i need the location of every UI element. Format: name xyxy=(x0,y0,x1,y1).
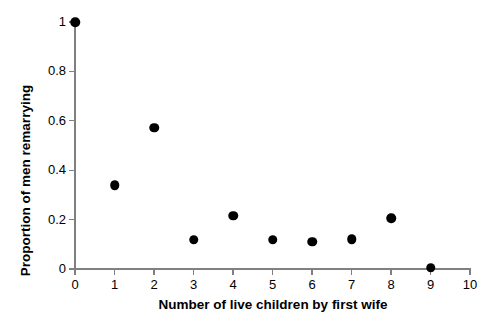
x-axis-tick-label: 3 xyxy=(174,277,214,292)
y-axis-tick-label: 0 xyxy=(8,262,66,276)
data-point xyxy=(386,213,396,223)
y-axis-tick-label: 0.8 xyxy=(8,64,66,78)
y-axis-tick xyxy=(69,120,74,121)
y-axis-tick xyxy=(69,71,74,72)
x-axis-tick xyxy=(351,270,352,275)
y-axis-tick-label-text: 1 xyxy=(12,15,66,28)
y-axis-line xyxy=(74,21,76,270)
y-axis-tick-label: 0.4 xyxy=(8,163,66,177)
data-point xyxy=(347,235,357,245)
x-axis-tick xyxy=(74,270,75,275)
x-axis-tick xyxy=(272,270,273,275)
scatter-chart-figure: Proportion of men remarrying 00.20.40.60… xyxy=(0,0,492,329)
x-axis-tick xyxy=(153,270,154,275)
x-axis-tick-label: 4 xyxy=(213,277,253,292)
x-axis-tick-label: 9 xyxy=(411,277,451,292)
y-axis-tick xyxy=(69,170,74,171)
y-axis-tick-label-text: 0.8 xyxy=(12,64,66,77)
x-axis-tick-label: 10 xyxy=(450,277,490,292)
x-axis-tick-label: 8 xyxy=(371,277,411,292)
data-point xyxy=(110,180,120,190)
y-axis-tick-label: 0.2 xyxy=(8,213,66,227)
y-axis-tick-label-text: 0 xyxy=(12,262,66,275)
x-axis-tick xyxy=(114,270,115,275)
y-axis-tick-label: 1 xyxy=(8,15,66,29)
x-axis-tick xyxy=(390,270,391,275)
x-axis-title: Number of live children by first wife xyxy=(75,297,471,312)
x-axis-tick-label: 7 xyxy=(332,277,372,292)
y-axis-tick-label-text: 0.4 xyxy=(12,163,66,176)
x-axis-tick-label: 1 xyxy=(95,277,135,292)
x-axis-tick xyxy=(232,270,233,275)
data-point xyxy=(149,123,159,133)
y-axis-tick-label-text: 0.6 xyxy=(12,114,66,127)
data-point xyxy=(268,235,278,245)
x-axis-tick-label: 5 xyxy=(253,277,293,292)
y-axis-tick-label-text: 0.2 xyxy=(12,213,66,226)
x-axis-tick xyxy=(469,270,470,275)
data-point xyxy=(70,17,80,27)
data-point xyxy=(426,263,436,273)
x-axis-tick xyxy=(311,270,312,275)
y-axis-tick-label: 0.6 xyxy=(8,114,66,128)
x-axis-tick-label: 2 xyxy=(134,277,174,292)
x-axis-tick-label: 0 xyxy=(55,277,95,292)
x-axis-tick-label: 6 xyxy=(292,277,332,292)
data-point xyxy=(228,211,238,221)
x-axis-tick xyxy=(193,270,194,275)
data-point xyxy=(307,237,317,247)
y-axis-tick xyxy=(69,268,74,269)
data-point xyxy=(189,235,199,245)
y-axis-tick xyxy=(69,219,74,220)
